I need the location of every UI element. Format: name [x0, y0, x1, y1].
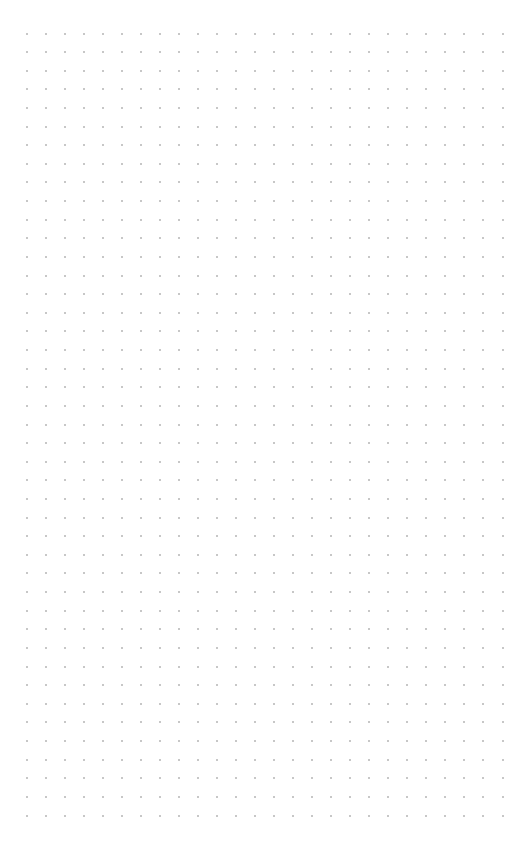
- grid-dot: [178, 70, 180, 72]
- grid-dot: [444, 88, 446, 90]
- grid-dot: [387, 647, 389, 649]
- grid-dot: [45, 684, 47, 686]
- grid-dot: [444, 777, 446, 779]
- grid-dot: [235, 479, 237, 481]
- grid-dot: [368, 88, 370, 90]
- grid-dot: [463, 368, 465, 370]
- grid-dot: [311, 349, 313, 351]
- grid-dot: [254, 666, 256, 668]
- grid-dot: [292, 200, 294, 202]
- grid-dot: [482, 647, 484, 649]
- grid-dot: [444, 703, 446, 705]
- grid-dot: [197, 256, 199, 258]
- grid-dot: [444, 51, 446, 53]
- grid-dot: [292, 275, 294, 277]
- grid-dot: [311, 126, 313, 128]
- grid-dot: [330, 703, 332, 705]
- grid-dot: [330, 479, 332, 481]
- grid-dot: [311, 740, 313, 742]
- grid-dot: [197, 51, 199, 53]
- grid-dot: [502, 163, 504, 165]
- grid-dot: [235, 107, 237, 109]
- grid-dot: [425, 33, 427, 35]
- grid-dot: [197, 405, 199, 407]
- grid-dot: [273, 777, 275, 779]
- grid-dot: [482, 33, 484, 35]
- grid-dot: [102, 70, 104, 72]
- grid-dot: [197, 70, 199, 72]
- grid-dot: [482, 498, 484, 500]
- grid-dot: [197, 200, 199, 202]
- grid-dot: [26, 51, 28, 53]
- grid-dot: [121, 349, 123, 351]
- grid-dot: [425, 256, 427, 258]
- grid-dot: [273, 256, 275, 258]
- grid-dot: [83, 219, 85, 221]
- grid-dot: [254, 554, 256, 556]
- grid-dot: [406, 759, 408, 761]
- grid-dot: [444, 219, 446, 221]
- grid-dot: [140, 815, 142, 817]
- grid-dot: [482, 219, 484, 221]
- grid-dot: [45, 126, 47, 128]
- grid-dot: [406, 181, 408, 183]
- grid-dot: [140, 721, 142, 723]
- grid-dot: [425, 386, 427, 388]
- grid-dot: [45, 88, 47, 90]
- grid-dot: [444, 461, 446, 463]
- grid-dot: [311, 219, 313, 221]
- grid-dot: [406, 815, 408, 817]
- grid-dot: [178, 610, 180, 612]
- grid-dot: [273, 647, 275, 649]
- grid-dot: [311, 368, 313, 370]
- grid-dot: [159, 33, 161, 35]
- grid-dot: [330, 144, 332, 146]
- grid-dot: [178, 461, 180, 463]
- grid-dot: [406, 777, 408, 779]
- grid-dot: [406, 666, 408, 668]
- grid-dot: [235, 349, 237, 351]
- grid-dot: [311, 442, 313, 444]
- grid-dot: [45, 796, 47, 798]
- grid-dot: [425, 498, 427, 500]
- grid-dot: [463, 815, 465, 817]
- grid-dot: [178, 107, 180, 109]
- grid-dot: [444, 126, 446, 128]
- grid-dot: [292, 107, 294, 109]
- grid-dot: [330, 219, 332, 221]
- grid-dot: [83, 610, 85, 612]
- grid-dot: [64, 721, 66, 723]
- grid-dot: [64, 275, 66, 277]
- grid-dot: [482, 777, 484, 779]
- grid-dot: [406, 51, 408, 53]
- grid-dot: [387, 293, 389, 295]
- grid-dot: [235, 610, 237, 612]
- grid-dot: [311, 33, 313, 35]
- grid-dot: [178, 815, 180, 817]
- grid-dot: [83, 275, 85, 277]
- grid-dot: [197, 442, 199, 444]
- grid-dot: [387, 554, 389, 556]
- grid-dot: [425, 610, 427, 612]
- grid-dot: [235, 461, 237, 463]
- grid-dot: [482, 424, 484, 426]
- grid-dot: [140, 572, 142, 574]
- grid-dot: [368, 330, 370, 332]
- grid-dot: [463, 405, 465, 407]
- grid-dot: [83, 107, 85, 109]
- grid-dot: [83, 740, 85, 742]
- grid-dot: [292, 759, 294, 761]
- grid-dot: [102, 163, 104, 165]
- grid-dot: [311, 163, 313, 165]
- grid-dot: [502, 70, 504, 72]
- grid-dot: [368, 219, 370, 221]
- grid-dot: [330, 628, 332, 630]
- grid-dot: [387, 461, 389, 463]
- grid-dot: [45, 498, 47, 500]
- grid-dot: [292, 330, 294, 332]
- grid-dot: [444, 628, 446, 630]
- dot-grid-canvas[interactable]: [0, 0, 521, 845]
- grid-dot: [254, 330, 256, 332]
- grid-dot: [159, 312, 161, 314]
- grid-dot: [444, 554, 446, 556]
